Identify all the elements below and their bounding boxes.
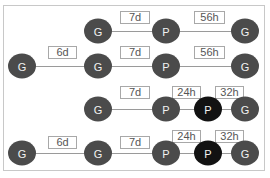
- interval-label: 24h: [172, 86, 201, 99]
- node-g: G: [231, 54, 259, 79]
- node-p: P: [152, 141, 180, 166]
- node-g: G: [84, 97, 112, 122]
- interval-label: 7d: [120, 11, 150, 24]
- row-connector-line: [22, 66, 245, 67]
- node-g: G: [231, 97, 259, 122]
- node-g: G: [84, 19, 112, 44]
- node-g: G: [8, 54, 36, 79]
- node-g: G: [231, 141, 259, 166]
- interval-label: 56h: [194, 11, 225, 24]
- node-p-highlighted: P: [194, 97, 222, 122]
- interval-label: 7d: [120, 136, 150, 149]
- node-p-highlighted: P: [194, 141, 222, 166]
- interval-label: 7d: [120, 46, 150, 59]
- node-p: P: [152, 19, 180, 44]
- node-g: G: [231, 19, 259, 44]
- interval-label: 6d: [48, 46, 77, 59]
- interval-label: 7d: [120, 86, 150, 99]
- node-g: G: [84, 141, 112, 166]
- node-g: G: [8, 141, 36, 166]
- node-p: P: [152, 54, 180, 79]
- node-g: G: [84, 54, 112, 79]
- interval-label: 6d: [48, 136, 77, 149]
- interval-label: 24h: [172, 130, 201, 143]
- interval-label: 56h: [194, 46, 225, 59]
- node-p: P: [152, 97, 180, 122]
